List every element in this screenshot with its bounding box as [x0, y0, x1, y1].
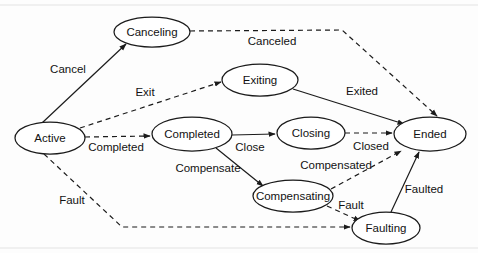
node-active[interactable]: Active	[15, 122, 85, 154]
edge-completed	[85, 136, 150, 137]
state-diagram-svg: Active Canceling Exiting Completed Closi…	[0, 0, 478, 253]
node-exiting[interactable]: Exiting	[222, 64, 298, 96]
node-faulting-label: Faulting	[366, 222, 407, 234]
edge-label-fault-active: Fault	[59, 194, 85, 206]
node-closing[interactable]: Closing	[277, 117, 345, 149]
node-closing-label: Closing	[292, 127, 330, 139]
node-ended-label: Ended	[413, 128, 446, 140]
node-active-label: Active	[34, 132, 65, 144]
state-diagram-canvas: Active Canceling Exiting Completed Closi…	[0, 0, 478, 253]
edge-label-canceled: Canceled	[248, 35, 297, 47]
edge-label-fault-comp: Fault	[338, 199, 364, 211]
edge-close	[232, 134, 275, 135]
node-exiting-label: Exiting	[243, 74, 278, 86]
edge-label-compensate: Compensate	[175, 162, 240, 174]
edge-label-exit: Exit	[135, 86, 155, 98]
node-completed[interactable]: Completed	[152, 117, 232, 151]
node-faulting[interactable]: Faulting	[352, 212, 420, 244]
edge-label-cancel: Cancel	[50, 63, 86, 75]
node-canceling[interactable]: Canceling	[114, 17, 190, 47]
edge-label-completed: Completed	[88, 141, 144, 153]
node-compensating-label: Compensating	[256, 190, 330, 202]
edge-label-compensated: Compensated	[300, 159, 372, 171]
node-canceling-label: Canceling	[126, 26, 177, 38]
node-compensating[interactable]: Compensating	[253, 180, 333, 212]
edge-label-closed: Closed	[353, 140, 389, 152]
node-ended[interactable]: Ended	[394, 117, 466, 151]
edge-label-exited: Exited	[346, 85, 378, 97]
edge-label-faulted: Faulted	[405, 183, 443, 195]
edge-faulted	[391, 152, 419, 212]
edge-cancel	[42, 44, 126, 123]
edge-label-close: Close	[235, 141, 264, 153]
node-completed-label: Completed	[164, 128, 220, 140]
